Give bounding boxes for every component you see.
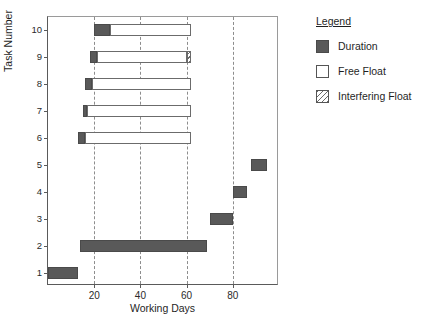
- legend-swatch-freefloat-icon: [316, 65, 329, 78]
- x-tick-label-40: 40: [135, 291, 146, 301]
- bar-task-8-duration: [85, 78, 92, 90]
- bar-task-5-duration: [251, 159, 267, 171]
- y-tick-label-4: 4: [37, 187, 42, 197]
- y-tick-label-3: 3: [37, 214, 42, 224]
- bar-task-8-free-float: [92, 78, 191, 90]
- gantt-chart: 2040608012345678910 Working Days Task Nu…: [0, 0, 426, 332]
- bar-task-9-duration: [90, 51, 97, 63]
- y-tick-label-9: 9: [37, 53, 42, 63]
- bar-task-10-free-float: [110, 24, 191, 36]
- bar-task-4-duration: [233, 186, 247, 198]
- y-tick-2: [44, 246, 48, 247]
- y-tick-6: [44, 138, 48, 139]
- legend-title: Legend: [316, 15, 424, 27]
- y-tick-7: [44, 111, 48, 112]
- y-tick-label-10: 10: [31, 26, 42, 36]
- legend-swatch-interfering-icon: [316, 90, 329, 103]
- x-axis-label: Working Days: [47, 302, 278, 314]
- plot-frame: 2040608012345678910: [47, 16, 278, 285]
- y-tick-label-8: 8: [37, 80, 42, 90]
- bar-task-1-duration: [48, 267, 78, 279]
- y-tick-4: [44, 192, 48, 193]
- legend-item-interfering: Interfering Float: [316, 89, 424, 103]
- x-tick-label-20: 20: [89, 291, 100, 301]
- legend: Legend DurationFree FloatInterfering Flo…: [316, 15, 424, 114]
- legend-item-freefloat: Free Float: [316, 64, 424, 78]
- y-tick-5: [44, 165, 48, 166]
- bar-task-7-free-float: [87, 105, 191, 117]
- y-tick-label-1: 1: [37, 268, 42, 278]
- bar-task-9-interfering-float: [187, 51, 192, 63]
- x-tick-60: [187, 284, 188, 288]
- x-tick-40: [140, 284, 141, 288]
- bar-task-9-free-float: [97, 51, 187, 63]
- legend-label-freefloat: Free Float: [338, 66, 386, 77]
- x-tick-80: [233, 284, 234, 288]
- legend-swatch-duration-icon: [316, 40, 329, 53]
- x-tick-label-80: 80: [227, 291, 238, 301]
- x-tick-label-60: 60: [181, 291, 192, 301]
- bar-task-10-duration: [94, 24, 110, 36]
- y-tick-label-2: 2: [37, 241, 42, 251]
- y-tick-3: [44, 219, 48, 220]
- plot-area: 2040608012345678910: [48, 17, 277, 284]
- bar-task-6-free-float: [85, 132, 191, 144]
- bar-task-6-duration: [78, 132, 85, 144]
- legend-label-interfering: Interfering Float: [338, 91, 412, 102]
- y-axis-label: Task Number: [2, 0, 14, 96]
- x-tick-20: [94, 284, 95, 288]
- legend-label-duration: Duration: [338, 41, 378, 52]
- bar-task-2-duration: [80, 240, 207, 252]
- legend-item-duration: Duration: [316, 39, 424, 53]
- y-tick-label-7: 7: [37, 106, 42, 116]
- y-tick-8: [44, 84, 48, 85]
- bar-task-3-duration: [210, 213, 233, 225]
- bar-task-7-duration: [83, 105, 88, 117]
- gridline-x-80: [233, 17, 234, 284]
- y-tick-label-6: 6: [37, 133, 42, 143]
- y-tick-10: [44, 30, 48, 31]
- y-tick-label-5: 5: [37, 160, 42, 170]
- legend-items: DurationFree FloatInterfering Float: [316, 39, 424, 103]
- y-tick-9: [44, 57, 48, 58]
